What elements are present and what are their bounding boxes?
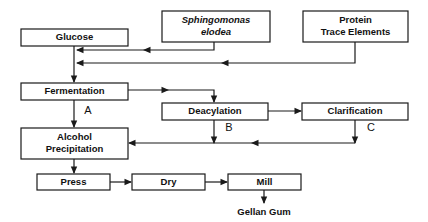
node-glucose[interactable]: Glucose	[21, 29, 128, 46]
node-sphingomonas[interactable]: Sphingomonaselodea	[162, 11, 270, 42]
node-label: Fermentation	[44, 85, 104, 96]
arrowhead-icon	[71, 121, 77, 129]
arrowhead-icon	[295, 108, 303, 114]
node-fermentation[interactable]: Fermentation	[21, 83, 128, 100]
node-label: Sphingomonas	[182, 14, 251, 25]
node-label: Trace Elements	[321, 26, 391, 37]
connector-fermentation-to-alcohol-precipitation	[71, 100, 77, 128]
connector-glucose-to-fermentation	[71, 46, 77, 83]
arrowhead-icon	[76, 47, 84, 53]
node-label: Press	[61, 176, 87, 187]
arrowhead-icon	[76, 60, 84, 66]
arrowhead-icon	[143, 47, 151, 53]
arrowhead-icon	[221, 60, 229, 66]
arrowhead-icon	[71, 167, 77, 175]
node-deacylation[interactable]: Deacylation	[162, 103, 268, 120]
arrowhead-icon	[71, 76, 77, 84]
node-label: Precipitation	[46, 143, 104, 154]
connector-press-to-dry	[110, 179, 132, 185]
step-letter-a: A	[84, 104, 92, 116]
node-label: Glucose	[56, 31, 94, 42]
arrowhead-icon	[251, 140, 259, 146]
connector-alcohol-precipitation-to-press	[71, 159, 77, 174]
gellan-gum-output: Gellan Gum	[237, 206, 290, 217]
node-label: Protein	[339, 14, 372, 25]
connector-merge-to-alcohol-precipitation	[128, 140, 355, 146]
node-label: Dry	[161, 176, 178, 187]
output-label-layer: Gellan Gum	[237, 206, 290, 217]
node-clarification[interactable]: Clarification	[302, 103, 408, 120]
node-mill[interactable]: Mill	[228, 174, 301, 190]
node-label: Clarification	[328, 105, 383, 116]
connector-mill-to-gellan-gum	[261, 190, 267, 204]
arrowhead-icon	[162, 87, 170, 93]
arrowhead-icon	[128, 140, 136, 146]
node-press[interactable]: Press	[37, 174, 110, 190]
connector-fermentation-to-deacylation	[128, 87, 217, 103]
connector-clarification-to-merge	[352, 120, 358, 144]
connector-deacylation-to-merge	[211, 120, 217, 144]
node-label: elodea	[201, 26, 231, 37]
flowchart-diagram: GlucoseSphingomonaselodeaProteinTrace El…	[0, 0, 428, 222]
connector-dry-to-mill	[205, 179, 228, 185]
connectors-layer	[71, 42, 358, 204]
arrowhead-icon	[221, 179, 229, 185]
step-letter-b: B	[225, 121, 232, 133]
node-label: Mill	[257, 176, 273, 187]
node-protein[interactable]: ProteinTrace Elements	[303, 11, 408, 42]
node-label: Deacylation	[188, 105, 242, 116]
connector-line	[128, 90, 214, 102]
node-label: Alcohol	[57, 131, 92, 142]
arrowhead-icon	[125, 179, 133, 185]
arrowhead-icon	[211, 96, 217, 104]
node-dry[interactable]: Dry	[132, 174, 205, 190]
node-alcohol-precipitation[interactable]: AlcoholPrecipitation	[21, 128, 128, 159]
step-letter-c: C	[367, 121, 375, 133]
connector-deacylation-to-clarification	[268, 108, 302, 114]
flowchart-canvas: GlucoseSphingomonaselodeaProteinTrace El…	[0, 0, 428, 222]
arrowhead-icon	[261, 197, 267, 205]
